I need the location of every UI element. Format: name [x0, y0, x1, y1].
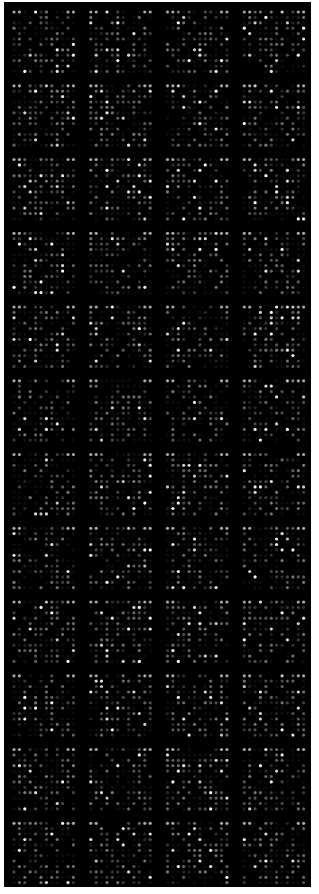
spot — [100, 64, 103, 67]
spot — [100, 802, 103, 805]
marker-spot — [72, 600, 75, 603]
spot — [127, 554, 130, 557]
spot — [61, 37, 64, 40]
spot — [66, 717, 69, 720]
spot — [105, 395, 108, 398]
spot — [209, 422, 212, 425]
spot — [50, 644, 53, 647]
spot — [45, 332, 48, 335]
spot — [132, 185, 135, 188]
spot — [61, 359, 64, 362]
spot — [72, 791, 75, 794]
spot — [291, 753, 294, 756]
spot — [100, 439, 103, 442]
marker-spot — [89, 379, 92, 382]
spot — [166, 401, 169, 404]
spot — [45, 453, 48, 456]
spot — [177, 327, 180, 330]
spot — [45, 854, 48, 857]
spot — [149, 212, 152, 215]
spot — [188, 32, 191, 35]
spot — [291, 327, 294, 330]
spot — [264, 734, 267, 737]
spot — [198, 144, 201, 147]
spot — [225, 797, 228, 800]
spot — [61, 212, 64, 215]
spot — [204, 32, 207, 35]
spot — [177, 728, 180, 731]
spot — [275, 491, 278, 494]
spot — [138, 622, 141, 625]
spot — [198, 775, 201, 778]
spot — [177, 764, 180, 767]
spot — [105, 575, 108, 578]
spot — [61, 496, 64, 499]
marker-spot — [248, 748, 251, 751]
spot — [23, 502, 26, 505]
spot — [132, 111, 135, 114]
spot — [138, 537, 141, 540]
spot — [45, 570, 48, 573]
spot-block — [166, 232, 229, 295]
spot — [143, 712, 146, 715]
spot — [188, 111, 191, 114]
spot — [149, 617, 152, 620]
spot — [264, 559, 267, 562]
spot — [12, 881, 15, 884]
spot — [177, 480, 180, 483]
spot — [61, 428, 64, 431]
spot — [56, 644, 59, 647]
spot — [111, 395, 114, 398]
spot — [220, 734, 223, 737]
spot — [89, 802, 92, 805]
spot — [66, 196, 69, 199]
spot — [149, 417, 152, 420]
spot — [297, 111, 300, 114]
spot — [198, 543, 201, 546]
spot — [220, 859, 223, 862]
spot — [171, 316, 174, 319]
spot — [259, 611, 262, 614]
spot — [127, 575, 130, 578]
spot — [34, 117, 37, 120]
spot — [171, 586, 174, 589]
spot — [89, 854, 92, 857]
spot — [34, 133, 37, 136]
spot — [177, 144, 180, 147]
spot — [193, 95, 196, 98]
spot — [204, 617, 207, 620]
spot — [56, 802, 59, 805]
spot — [18, 163, 21, 166]
spot — [138, 64, 141, 67]
spot — [34, 84, 37, 87]
spot — [61, 243, 64, 246]
spot — [193, 27, 196, 30]
spot — [100, 401, 103, 404]
spot — [264, 464, 267, 467]
spot — [291, 207, 294, 210]
spot — [39, 570, 42, 573]
spot — [61, 275, 64, 278]
spot-block — [243, 822, 306, 885]
spot — [132, 876, 135, 879]
spot — [209, 201, 212, 204]
spot — [105, 48, 108, 51]
spot — [188, 106, 191, 109]
spot — [105, 207, 108, 210]
marker-spot — [95, 600, 98, 603]
spot — [215, 701, 218, 704]
spot — [89, 95, 92, 98]
spot — [138, 644, 141, 647]
spot — [61, 802, 64, 805]
spot — [220, 564, 223, 567]
spot — [105, 512, 108, 515]
spot — [193, 759, 196, 762]
spot — [297, 349, 300, 352]
spot — [166, 64, 169, 67]
spot — [188, 16, 191, 19]
spot — [23, 212, 26, 215]
spot — [264, 180, 267, 183]
spot — [39, 586, 42, 589]
spot — [122, 291, 125, 294]
spot — [259, 734, 262, 737]
